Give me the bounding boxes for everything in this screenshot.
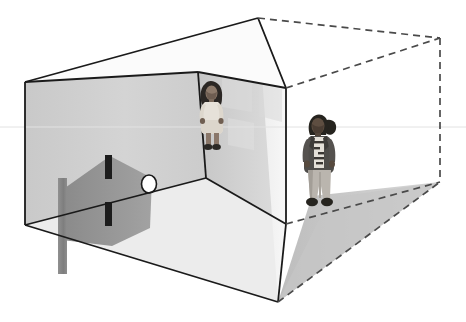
vertical-post [58,178,67,274]
ghost-window-lower [228,118,254,150]
dashed-diagonal-top [286,38,440,88]
dark-slot-upper [105,155,112,179]
dark-slot-lower [105,202,112,226]
ghost-window-right [259,84,282,122]
dashed-top-edge [258,18,440,38]
illustration-canvas [0,0,466,322]
perspective-room-scene [0,0,466,322]
white-circle-marker [142,175,157,193]
